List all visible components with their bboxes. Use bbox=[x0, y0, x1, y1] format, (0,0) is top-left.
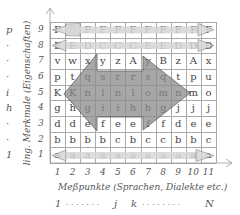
y-tick: 1 bbox=[38, 149, 44, 159]
y-tick: 7 bbox=[38, 55, 44, 65]
range-start: 1 bbox=[55, 198, 61, 209]
letter-scale-item: · bbox=[6, 134, 9, 145]
y-tick: 3 bbox=[38, 118, 44, 128]
x-tick: 7 bbox=[141, 167, 156, 177]
letter-scale-item: · bbox=[6, 40, 9, 51]
x-tick: 5 bbox=[110, 167, 125, 177]
x-axis-label: Meßpunkte (Sprachen, Dialekte etc.) bbox=[58, 182, 227, 192]
x-tick: 4 bbox=[95, 167, 110, 177]
x-tick: 8 bbox=[156, 167, 171, 177]
letter-scale-item: · bbox=[6, 71, 9, 82]
x-tick: 10 bbox=[186, 167, 201, 177]
row1-arrow-shaft bbox=[66, 152, 198, 159]
row8-arrow-shaft bbox=[66, 42, 198, 49]
letter-scale-item: h bbox=[6, 102, 12, 113]
y-tick: 9 bbox=[38, 24, 44, 34]
row1-right-arrow-icon bbox=[196, 150, 214, 162]
range-dots-2: . . . . . . . . bbox=[142, 198, 180, 207]
range-k: k bbox=[131, 198, 137, 209]
x-tick: 6 bbox=[125, 167, 140, 177]
y-tick: 8 bbox=[38, 40, 44, 50]
range-j: j bbox=[114, 198, 117, 209]
letter-scale-item: · bbox=[6, 55, 9, 66]
letter-scale-item: i bbox=[6, 87, 9, 98]
letter-scale-item: p bbox=[6, 24, 12, 35]
range-dots-1: . . . . . . . bbox=[66, 198, 99, 207]
letter-scale-item: 1 bbox=[6, 149, 12, 160]
letter-scale-item: · bbox=[6, 118, 9, 129]
row9-arrow-shaft bbox=[66, 27, 198, 34]
row8-left-arrow-icon bbox=[52, 40, 66, 51]
row9-right-arrow-icon bbox=[198, 24, 214, 37]
x-tick: 3 bbox=[80, 167, 95, 177]
y-axis-label: ling. Merkmale (Eigenschaften) bbox=[22, 18, 32, 168]
y-tick: 4 bbox=[38, 102, 44, 112]
row8-right-arrow-icon bbox=[198, 40, 214, 52]
range-end: N bbox=[205, 198, 214, 209]
y-tick: 5 bbox=[38, 87, 44, 97]
large-double-arrow-icon bbox=[64, 54, 190, 131]
x-tick: 1 bbox=[50, 167, 65, 177]
x-tick: 11 bbox=[201, 167, 216, 177]
y-tick: 2 bbox=[38, 134, 44, 144]
row1-left-arrow-icon bbox=[52, 150, 66, 161]
x-tick: 9 bbox=[171, 167, 186, 177]
y-tick: 6 bbox=[38, 71, 44, 81]
x-tick: 2 bbox=[65, 167, 80, 177]
